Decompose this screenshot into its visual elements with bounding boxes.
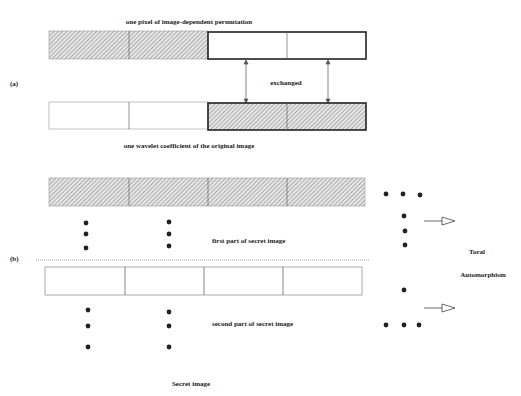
- permutation-pixel-bar: [49, 31, 366, 59]
- bottom-caption: one wavelet coefficient of the original …: [124, 142, 255, 150]
- first-part-label: first part of secret image: [212, 237, 285, 245]
- automorphism-label: Automorphism: [460, 271, 506, 279]
- arrow-right-icon: [424, 217, 455, 225]
- second-secret-bar: [45, 267, 362, 295]
- wavelet-coefficient-bar: [49, 102, 366, 130]
- toral-label: Toral: [469, 248, 485, 256]
- secret-image-caption: Secret image: [172, 380, 210, 388]
- second-part-label: second part of secret image: [212, 320, 293, 328]
- arrow-right-icon: [424, 304, 455, 312]
- panel-b-tag: (b): [10, 255, 19, 263]
- top-caption: one pixel of image-dependent permutation: [126, 18, 252, 26]
- diagram: one pixel of image-dependent permutation…: [0, 0, 521, 396]
- panel-a-tag: (a): [10, 80, 19, 88]
- exchanged-label: exchanged: [270, 79, 302, 87]
- first-secret-bar: [49, 178, 365, 206]
